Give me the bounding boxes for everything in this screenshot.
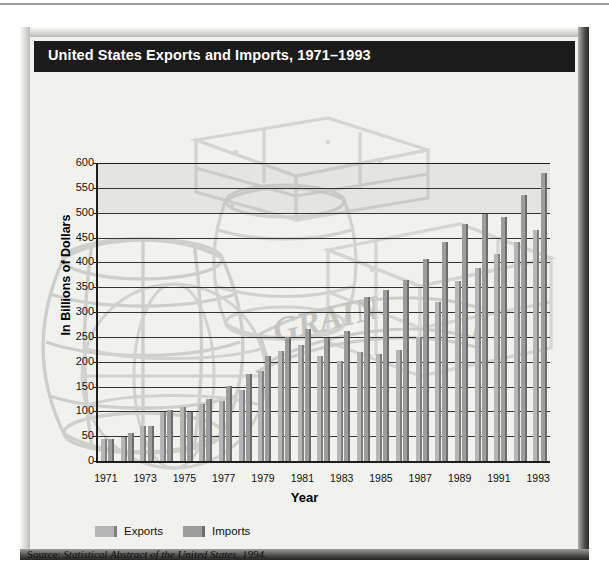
bar-imports-1979[interactable] (265, 356, 271, 461)
bar-side (486, 214, 488, 461)
bar-side (328, 338, 330, 461)
plot-area: 050100150200250300350400450500550600 (96, 163, 550, 463)
bar-imports-1974[interactable] (167, 410, 173, 461)
bar-exports-1985[interactable] (376, 354, 382, 461)
legend-item-exports[interactable]: Exports (95, 525, 163, 537)
bar-imports-1972[interactable] (128, 433, 134, 461)
bar-side (243, 390, 245, 461)
bar-exports-1987[interactable] (416, 337, 422, 461)
legend-label-imports: Imports (212, 525, 250, 537)
chart-legend: Exports Imports (95, 523, 250, 539)
bar-series-container (98, 163, 550, 461)
bar-imports-1978[interactable] (246, 374, 252, 461)
x-tick-label-1979: 1979 (243, 472, 283, 484)
bar-exports-1972[interactable] (121, 437, 127, 461)
bar-imports-1976[interactable] (206, 399, 212, 461)
bar-exports-1980[interactable] (278, 351, 284, 461)
y-tick-label-500: 500 (42, 206, 94, 218)
bar-side (144, 426, 146, 461)
y-tick-mark-0 (93, 461, 98, 462)
bar-side (302, 345, 304, 461)
bar-exports-1973[interactable] (140, 426, 146, 461)
bar-exports-1982[interactable] (317, 356, 323, 461)
bar-side (459, 281, 461, 461)
x-tick-label-1971: 1971 (86, 472, 126, 484)
bar-side (230, 386, 232, 461)
bar-imports-1977[interactable] (226, 386, 232, 461)
bar-imports-1991[interactable] (501, 217, 507, 461)
bar-exports-1993[interactable] (533, 230, 539, 461)
x-tick-label-1991: 1991 (479, 472, 519, 484)
bar-exports-1992[interactable] (514, 242, 520, 461)
bar-side (400, 350, 402, 461)
bar-side (184, 407, 186, 461)
x-tick-label-1975: 1975 (164, 472, 204, 484)
bar-exports-1978[interactable] (239, 390, 245, 461)
bar-exports-1988[interactable] (435, 302, 441, 461)
bar-exports-1971[interactable] (101, 439, 107, 461)
bar-side (498, 254, 500, 461)
x-tick-label-1983: 1983 (322, 472, 362, 484)
bar-imports-1987[interactable] (423, 259, 429, 461)
bar-imports-1992[interactable] (521, 195, 527, 461)
bar-imports-1981[interactable] (305, 329, 311, 461)
y-tick-label-350: 350 (42, 280, 94, 292)
chart-page: United States Exports and Imports, 1971–… (0, 0, 609, 584)
bar-side (466, 224, 468, 461)
bar-side (262, 371, 264, 461)
y-tick-label-450: 450 (42, 231, 94, 243)
bar-exports-1981[interactable] (298, 345, 304, 461)
y-tick-label-550: 550 (42, 181, 94, 193)
bar-side (341, 361, 343, 461)
bar-side (427, 259, 429, 461)
bar-exports-1983[interactable] (337, 361, 343, 461)
bar-imports-1971[interactable] (108, 439, 114, 461)
y-tick-label-0: 0 (42, 454, 94, 466)
bar-side (446, 242, 448, 461)
bar-side (309, 329, 311, 461)
bar-exports-1984[interactable] (357, 352, 363, 461)
bar-side (203, 404, 205, 461)
bar-exports-1989[interactable] (455, 281, 461, 461)
bar-side (132, 433, 134, 461)
bar-side (250, 374, 252, 461)
y-tick-label-400: 400 (42, 255, 94, 267)
bar-exports-1974[interactable] (160, 412, 166, 461)
bar-exports-1990[interactable] (475, 268, 481, 461)
bar-side (125, 437, 127, 461)
bar-exports-1991[interactable] (494, 254, 500, 461)
bar-side (505, 217, 507, 461)
page-top-rule (0, 3, 609, 5)
bar-imports-1983[interactable] (344, 331, 350, 461)
y-tick-label-600: 600 (42, 156, 94, 168)
bar-imports-1984[interactable] (364, 297, 370, 461)
bar-imports-1982[interactable] (324, 338, 330, 461)
bar-side (361, 352, 363, 461)
bar-imports-1973[interactable] (148, 426, 154, 461)
bar-imports-1988[interactable] (442, 242, 448, 461)
bar-side (105, 439, 107, 461)
legend-swatch-icon-imports (183, 526, 205, 537)
bar-imports-1989[interactable] (462, 224, 468, 461)
bar-imports-1990[interactable] (482, 214, 488, 461)
bar-imports-1975[interactable] (187, 412, 193, 461)
bar-exports-1975[interactable] (180, 407, 186, 461)
bar-side (420, 337, 422, 461)
bar-exports-1979[interactable] (258, 371, 264, 461)
bar-exports-1977[interactable] (219, 401, 225, 461)
bar-side (537, 230, 539, 461)
bar-side (380, 354, 382, 461)
bar-exports-1986[interactable] (396, 350, 402, 461)
x-tick-label-1973: 1973 (125, 472, 165, 484)
bar-exports-1976[interactable] (199, 404, 205, 461)
bar-imports-1980[interactable] (285, 337, 291, 461)
bar-imports-1986[interactable] (403, 280, 409, 461)
bar-imports-1993[interactable] (541, 173, 547, 461)
y-tick-label-50: 50 (42, 429, 94, 441)
source-citation: Statistical Abstract of the United State… (63, 548, 266, 560)
bar-imports-1985[interactable] (383, 290, 389, 461)
legend-label-exports: Exports (124, 525, 163, 537)
x-tick-label-1977: 1977 (204, 472, 244, 484)
bar-side (387, 290, 389, 461)
legend-item-imports[interactable]: Imports (183, 525, 250, 537)
